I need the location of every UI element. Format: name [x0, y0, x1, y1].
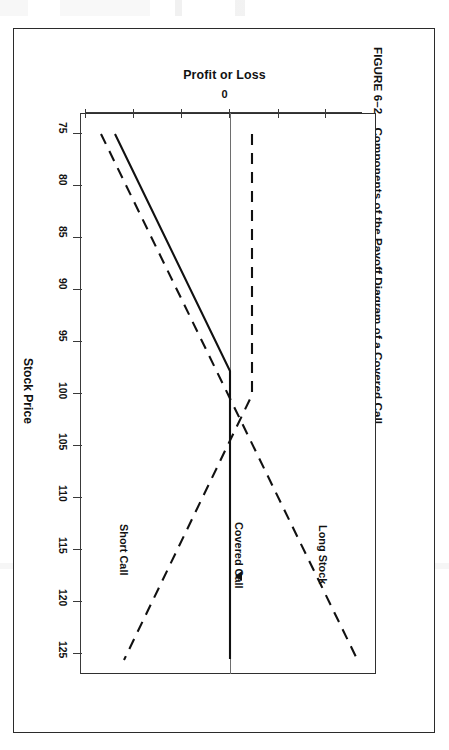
covered-call-pointer-icon [235, 571, 242, 581]
series-overlay [0, 0, 449, 750]
scanned-book-page: FIGURE 6–2Components of the Payoff Diagr… [0, 0, 449, 750]
covered-call-line [115, 134, 230, 659]
long-stock-label: Long Stock [316, 525, 330, 584]
short-call-label: Short Call [117, 524, 131, 575]
